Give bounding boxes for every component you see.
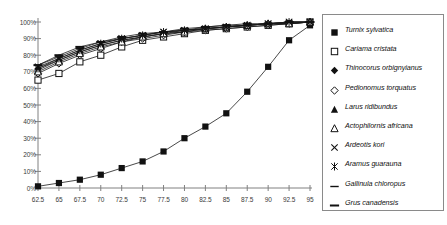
x-tick-label: 65 xyxy=(55,196,62,203)
legend-item-label: Cariama cristata xyxy=(345,44,397,53)
legend-item[interactable]: Gallinula chloropus xyxy=(323,174,443,193)
data-point-marker xyxy=(331,49,337,55)
legend-item-label: Pedionomus torquatus xyxy=(345,83,416,92)
x-tick-label: 72.5 xyxy=(116,196,128,203)
legend-item[interactable]: Ardeotis kori xyxy=(323,135,443,154)
x-tick-label: 95 xyxy=(306,196,313,203)
cross-x-icon xyxy=(329,139,340,150)
asterisk-icon xyxy=(329,158,340,169)
legend-item-label: Aramus guarauna xyxy=(345,159,401,168)
legend-item[interactable]: Larus ridibundus xyxy=(323,97,443,116)
legend-item-label: Actophilornis africana xyxy=(345,121,413,130)
data-point-marker xyxy=(331,86,338,93)
x-tick-label: 85 xyxy=(223,196,230,203)
dash-arrow-icon xyxy=(329,178,340,189)
x-tick-label: 82.5 xyxy=(199,196,211,203)
x-tick-label: 67.5 xyxy=(74,196,86,203)
data-point-marker xyxy=(331,125,338,132)
legend-item[interactable]: Pedionomus torquatus xyxy=(323,78,443,97)
legend-item[interactable]: Cariama cristata xyxy=(323,39,443,58)
legend-item[interactable]: Grus canadensis xyxy=(323,193,443,212)
x-tick-label: 87.5 xyxy=(241,196,253,203)
legend-item[interactable]: Thinocorus orbignyianus xyxy=(323,58,443,77)
thick-dash-icon xyxy=(329,197,340,208)
data-point-marker xyxy=(331,106,338,113)
chart-legend: Turnix sylvaticaCariama cristataThinocor… xyxy=(322,14,444,211)
legend-item-label: Gallinula chloropus xyxy=(345,179,405,188)
x-tick-label: 92.5 xyxy=(283,196,295,203)
filled-square-icon xyxy=(329,24,340,35)
filled-diamond-icon xyxy=(329,62,340,73)
legend-item-label: Larus ridibundus xyxy=(345,102,397,111)
legend-item-label: Thinocorus orbignyianus xyxy=(345,63,422,72)
legend-item[interactable]: Turnix sylvatica xyxy=(323,20,443,39)
open-triangle-icon xyxy=(329,120,340,131)
open-diamond-icon xyxy=(329,82,340,93)
x-tick-label: 77.5 xyxy=(157,196,169,203)
legend-item-label: Turnix sylvatica xyxy=(345,25,393,34)
x-axis-tick-labels: 62.56567.57072.57577.58082.58587.59092.5… xyxy=(0,0,320,225)
filled-triangle-icon xyxy=(329,101,340,112)
open-square-icon xyxy=(329,43,340,54)
x-tick-label: 80 xyxy=(181,196,188,203)
x-tick-label: 62.5 xyxy=(32,196,44,203)
data-point-marker xyxy=(331,29,337,35)
legend-item[interactable]: Actophilornis africana xyxy=(323,116,443,135)
chart-root: 0%10%20%30%40%50%60%70%80%90%100% 62.565… xyxy=(0,0,447,225)
legend-item-label: Grus canadensis xyxy=(345,198,398,207)
x-tick-label: 75 xyxy=(139,196,146,203)
x-tick-label: 70 xyxy=(97,196,104,203)
legend-item[interactable]: Aramus guarauna xyxy=(323,154,443,173)
legend-item-label: Ardeotis kori xyxy=(345,140,384,149)
x-tick-label: 90 xyxy=(265,196,272,203)
data-point-marker xyxy=(331,67,338,74)
